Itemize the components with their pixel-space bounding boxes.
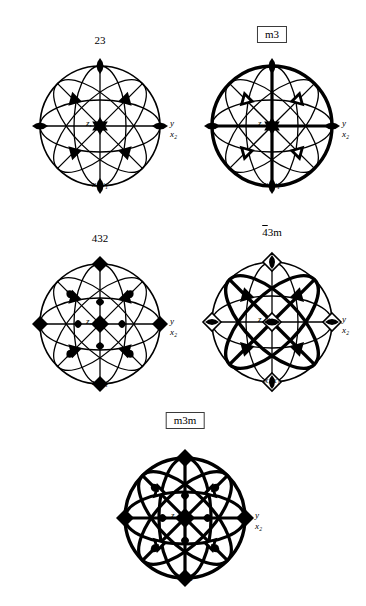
triad-filled bbox=[118, 141, 137, 160]
axis-label-x-x1: x, x₁ bbox=[177, 571, 193, 581]
diad-symbol-left bbox=[204, 123, 220, 130]
triad-filled bbox=[118, 92, 137, 111]
tetrad-left bbox=[32, 316, 48, 332]
stereogram-m3m-drawing bbox=[109, 412, 261, 592]
axis-label-y: y bbox=[342, 314, 346, 324]
axis-label-y: y bbox=[255, 510, 259, 520]
axis-label-y: y bbox=[170, 118, 174, 128]
axis-label-x2: x₂ bbox=[170, 129, 177, 139]
axis-label-center: z, x₃ bbox=[86, 316, 101, 326]
tetrad-top bbox=[176, 449, 194, 467]
axis-label-x2: x₂ bbox=[255, 521, 262, 531]
stereogram-432-drawing bbox=[24, 232, 176, 392]
diad-inner-bottom bbox=[96, 342, 104, 350]
axis-label-center: z, x₃ bbox=[86, 118, 101, 128]
diad-symbol-right bbox=[324, 123, 340, 130]
triad-filled bbox=[63, 141, 82, 160]
axis-label-center: z, x₃ bbox=[171, 510, 186, 520]
stereogram-m3m: m3m bbox=[109, 412, 261, 592]
axis-label-y: y bbox=[170, 316, 174, 326]
point-group-stereogram-figure: 23 bbox=[0, 0, 366, 606]
title-rest: 3m bbox=[268, 226, 282, 238]
axis-label-x2: x₂ bbox=[342, 325, 349, 335]
diagram-title-432: 432 bbox=[92, 232, 109, 245]
stereogram-23-drawing bbox=[24, 34, 176, 194]
stereogram-432: 432 bbox=[24, 232, 176, 392]
diad-inner-top bbox=[96, 298, 104, 306]
axis-label-x2: x₂ bbox=[170, 327, 177, 337]
axis-label-x-x1: x, x₁ bbox=[92, 179, 108, 189]
diagram-title-m3m: m3m bbox=[166, 412, 205, 429]
axis-label-center: z, x₃ bbox=[258, 118, 273, 128]
stereogram-23: 23 bbox=[24, 34, 176, 194]
axis-label-x-x1: x, x₁ bbox=[264, 375, 280, 385]
axis-label-x2: x₂ bbox=[342, 129, 349, 139]
tetrad-left bbox=[116, 509, 134, 527]
diad-symbol-right bbox=[152, 123, 168, 130]
axis-label-x-x1: x, x₁ bbox=[92, 377, 108, 387]
diagram-title-23: 23 bbox=[95, 34, 106, 47]
tetrad-right bbox=[152, 316, 168, 332]
axis-label-x-x1: x, x₁ bbox=[264, 179, 280, 189]
diad-symbol-top bbox=[269, 58, 276, 74]
triad-filled bbox=[63, 92, 82, 111]
stereogram-43m: 43m bbox=[196, 226, 348, 392]
stereogram-m3-drawing bbox=[196, 26, 348, 194]
diagram-title-m3: m3 bbox=[257, 26, 287, 43]
axis-label-center: z, x₃ bbox=[258, 314, 273, 324]
diad-inner-right bbox=[118, 320, 126, 328]
tetrad-top bbox=[92, 256, 108, 272]
diagram-title-43m: 43m bbox=[262, 226, 282, 239]
tetrad-right bbox=[236, 509, 254, 527]
stereogram-m3: m3 bbox=[196, 26, 348, 194]
axis-label-y: y bbox=[342, 118, 346, 128]
diad-symbol-top bbox=[97, 58, 104, 74]
diad-inner-left bbox=[74, 320, 82, 328]
diad-symbol-left bbox=[32, 123, 48, 130]
stereogram-43m-drawing bbox=[196, 226, 348, 392]
